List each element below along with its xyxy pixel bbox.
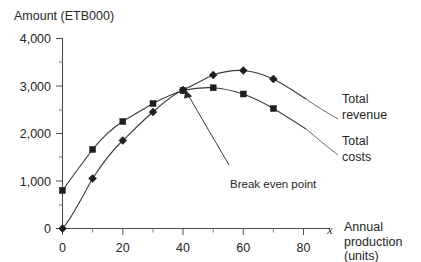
total-costs-label-line2: costs [342,150,371,164]
total-costs-point-30 [150,101,156,107]
x-axis-major-ticks [63,229,304,236]
total-revenue-label-line1: Total [342,92,368,106]
total-costs-point-60 [240,91,246,97]
total-revenue-label-line2: revenue [342,108,387,122]
y-tick-label-0: 0 [44,222,51,236]
x-axis-title-line1: Annual [344,220,383,234]
total-costs-point-50 [210,85,216,91]
total-costs-label-line1: Total [342,134,368,148]
total-costs-leader [306,129,338,155]
y-tick-label-3000: 3,000 [20,80,51,94]
x-axis-variable-label: x [326,223,333,237]
series-label-total-revenue: Total revenue [342,92,387,122]
total-revenue-line [63,70,307,228]
total-revenue-point-50 [209,71,217,79]
x-axis-tick-labels: 0 20 40 60 80 [59,241,310,255]
x-tick-label-40: 40 [176,241,190,255]
x-tick-label-20: 20 [116,241,130,255]
total-revenue-point-70 [269,75,277,83]
total-revenue-point-60 [239,67,247,75]
series-label-total-costs: Total costs [342,134,371,164]
y-tick-label-2000: 2,000 [20,127,51,141]
total-costs-point-0 [59,187,65,193]
total-costs-point-10 [90,147,96,153]
series-leader-lines [306,99,338,155]
x-tick-label-60: 60 [236,241,250,255]
x-axis-title-line2: production [344,235,402,249]
x-tick-label-80: 80 [297,241,311,255]
break-even-chart: Amount (ETB000) 4,000 3,000 2,000 1,000 [0,0,421,262]
x-axis-title: Annual production (units) [344,220,402,262]
x-axis-title-line3: (units) [344,249,379,262]
break-even-point-label: Break even point [230,178,317,190]
axes-group [62,38,330,229]
y-axis-major-ticks [56,39,63,229]
total-costs-line [63,88,307,191]
total-costs-point-70 [270,106,276,112]
break-even-arrow-line [188,94,230,165]
y-axis-tick-labels: 4,000 3,000 2,000 1,000 0 [20,32,51,236]
x-tick-label-0: 0 [59,241,66,255]
y-axis-title: Amount (ETB000) [14,9,114,23]
y-tick-label-1000: 1,000 [20,175,51,189]
total-revenue-leader [306,99,338,119]
total-revenue-point-10 [89,175,97,183]
break-even-annotation: Break even point [184,90,317,190]
total-costs-point-20 [120,119,126,125]
y-tick-label-4000: 4,000 [20,32,51,46]
chart-figure: Amount (ETB000) 4,000 3,000 2,000 1,000 [0,0,421,262]
